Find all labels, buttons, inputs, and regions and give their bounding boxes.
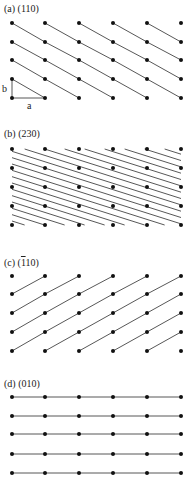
lattice-point — [43, 185, 47, 189]
plane-line — [147, 60, 181, 79]
lattice-point — [10, 432, 14, 436]
lattice-point — [43, 330, 47, 334]
lattice-point — [179, 292, 183, 296]
lattice-point — [179, 330, 183, 334]
lattice-point — [43, 96, 47, 100]
plane-line — [79, 294, 113, 313]
lattice-point — [145, 185, 149, 189]
lattice-point — [179, 96, 183, 100]
plane-line — [147, 332, 181, 351]
lattice-point — [145, 311, 149, 315]
lattice-point — [10, 58, 14, 62]
plane-line — [12, 294, 45, 313]
lattice-point — [111, 395, 115, 399]
lattice-point — [145, 414, 149, 418]
lattice-point — [111, 330, 115, 334]
lattice-point — [43, 274, 47, 278]
lattice-point — [10, 204, 14, 208]
plane-line — [113, 276, 147, 294]
lattice-point — [77, 40, 81, 44]
lattice-point — [43, 204, 47, 208]
lattice-point — [179, 349, 183, 353]
lattice-point — [179, 471, 183, 475]
lattice-point — [145, 471, 149, 475]
lattice-point — [77, 330, 81, 334]
lattice-point — [111, 40, 115, 44]
plane-line — [79, 23, 113, 42]
lattice-point — [179, 274, 183, 278]
plane-line — [165, 149, 181, 154]
lattice-point — [111, 21, 115, 25]
lattice-point — [145, 204, 149, 208]
plane-line — [147, 42, 181, 60]
lattice-point — [111, 96, 115, 100]
lattice-point — [43, 21, 47, 25]
plane-line — [45, 276, 79, 294]
lattice-point — [43, 58, 47, 62]
lattice-point — [111, 452, 115, 456]
lattice-point — [145, 77, 149, 81]
plane-line — [12, 208, 65, 225]
lattice-point — [77, 311, 81, 315]
lattice-point — [10, 452, 14, 456]
lattice-point — [77, 452, 81, 456]
lattice-point — [111, 77, 115, 81]
lattice-point — [77, 223, 81, 227]
lattice-point — [77, 274, 81, 278]
lattice-point — [111, 414, 115, 418]
lattice-point — [111, 147, 115, 151]
lattice-point — [77, 166, 81, 170]
plane-line — [79, 60, 113, 79]
plane-line — [147, 276, 181, 294]
lattice-point — [43, 311, 47, 315]
lattice-point — [77, 395, 81, 399]
lattice-point — [179, 166, 183, 170]
lattice-point — [43, 414, 47, 418]
lattice-point — [179, 58, 183, 62]
lattice-point — [43, 452, 47, 456]
lattice-point — [179, 311, 183, 315]
lattice-point — [77, 432, 81, 436]
axis-a-label: a — [27, 100, 31, 111]
lattice-point — [10, 274, 14, 278]
lattice-point — [145, 452, 149, 456]
lattice-point — [43, 147, 47, 151]
lattice-point — [179, 432, 183, 436]
lattice-point — [145, 40, 149, 44]
lattice-point — [43, 223, 47, 227]
lattice-point — [179, 185, 183, 189]
plane-line — [12, 196, 105, 225]
lattice-point — [179, 223, 183, 227]
plane-line — [12, 183, 145, 225]
lattice-point — [10, 292, 14, 296]
lattice-point — [111, 58, 115, 62]
lattice-point — [179, 21, 183, 25]
plane-line — [12, 23, 45, 42]
lattice-point — [10, 471, 14, 475]
axis-b-label: b — [2, 83, 7, 94]
lattice-point — [10, 395, 14, 399]
lattice-point — [111, 349, 115, 353]
lattice-point — [179, 147, 183, 151]
plane-line — [25, 149, 181, 199]
lattice-point — [111, 166, 115, 170]
lattice-point — [111, 471, 115, 475]
lattice-point — [10, 185, 14, 189]
lattice-point — [111, 223, 115, 227]
plane-line — [147, 23, 181, 42]
lattice-point — [145, 274, 149, 278]
lattice-point — [77, 185, 81, 189]
plane-line — [12, 177, 165, 225]
lattice-point — [43, 471, 47, 475]
lattice-point — [179, 40, 183, 44]
lattice-point — [77, 204, 81, 208]
plane-line — [147, 79, 181, 98]
lattice-point — [145, 292, 149, 296]
plane-line — [12, 42, 45, 60]
lattice-point — [145, 166, 149, 170]
lattice-point — [145, 432, 149, 436]
plane-line — [45, 79, 79, 98]
plane-line — [113, 23, 147, 42]
plane-line — [113, 332, 147, 351]
plane-line — [45, 294, 79, 313]
